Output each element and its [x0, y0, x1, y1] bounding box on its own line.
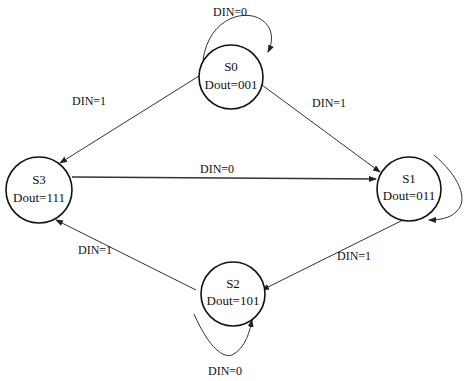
state-s0-output: Dout=001: [205, 77, 258, 92]
edge-s3-s1: [72, 177, 376, 179]
edge-s0-s3: [60, 76, 199, 163]
state-s2-name: S2: [226, 276, 240, 291]
state-s0-name: S0: [224, 59, 238, 74]
label-s0-s0: DIN=0: [213, 5, 247, 19]
label-s0-s3: DIN=1: [72, 94, 106, 108]
label-s2-s2: DIN=0: [208, 364, 242, 378]
label-s0-s1: DIN=1: [312, 96, 346, 110]
state-s1: S1 Dout=011: [377, 157, 441, 221]
state-s1-output: Dout=011: [383, 188, 435, 203]
label-s1-s2: DIN=1: [337, 249, 371, 263]
diagram-svg: DIN=0 DIN=1 DIN=1 DIN=0 DIN=1 DIN=0 DIN=…: [0, 0, 465, 381]
label-s2-s3: DIN=1: [78, 243, 112, 257]
state-s3-output: Dout=111: [13, 190, 65, 205]
edge-s1-s2: [262, 220, 403, 290]
state-s3-name: S3: [32, 172, 46, 187]
state-s3: S3 Dout=111: [6, 157, 72, 223]
state-s0: S0 Dout=001: [199, 45, 263, 109]
edge-s2-s3: [56, 220, 196, 290]
label-s3-s1: DIN=0: [200, 162, 234, 176]
state-diagram: DIN=0 DIN=1 DIN=1 DIN=0 DIN=1 DIN=0 DIN=…: [0, 0, 465, 381]
state-s1-name: S1: [402, 171, 416, 186]
state-s2-output: Dout=101: [207, 293, 260, 308]
state-s2: S2 Dout=101: [201, 262, 265, 326]
